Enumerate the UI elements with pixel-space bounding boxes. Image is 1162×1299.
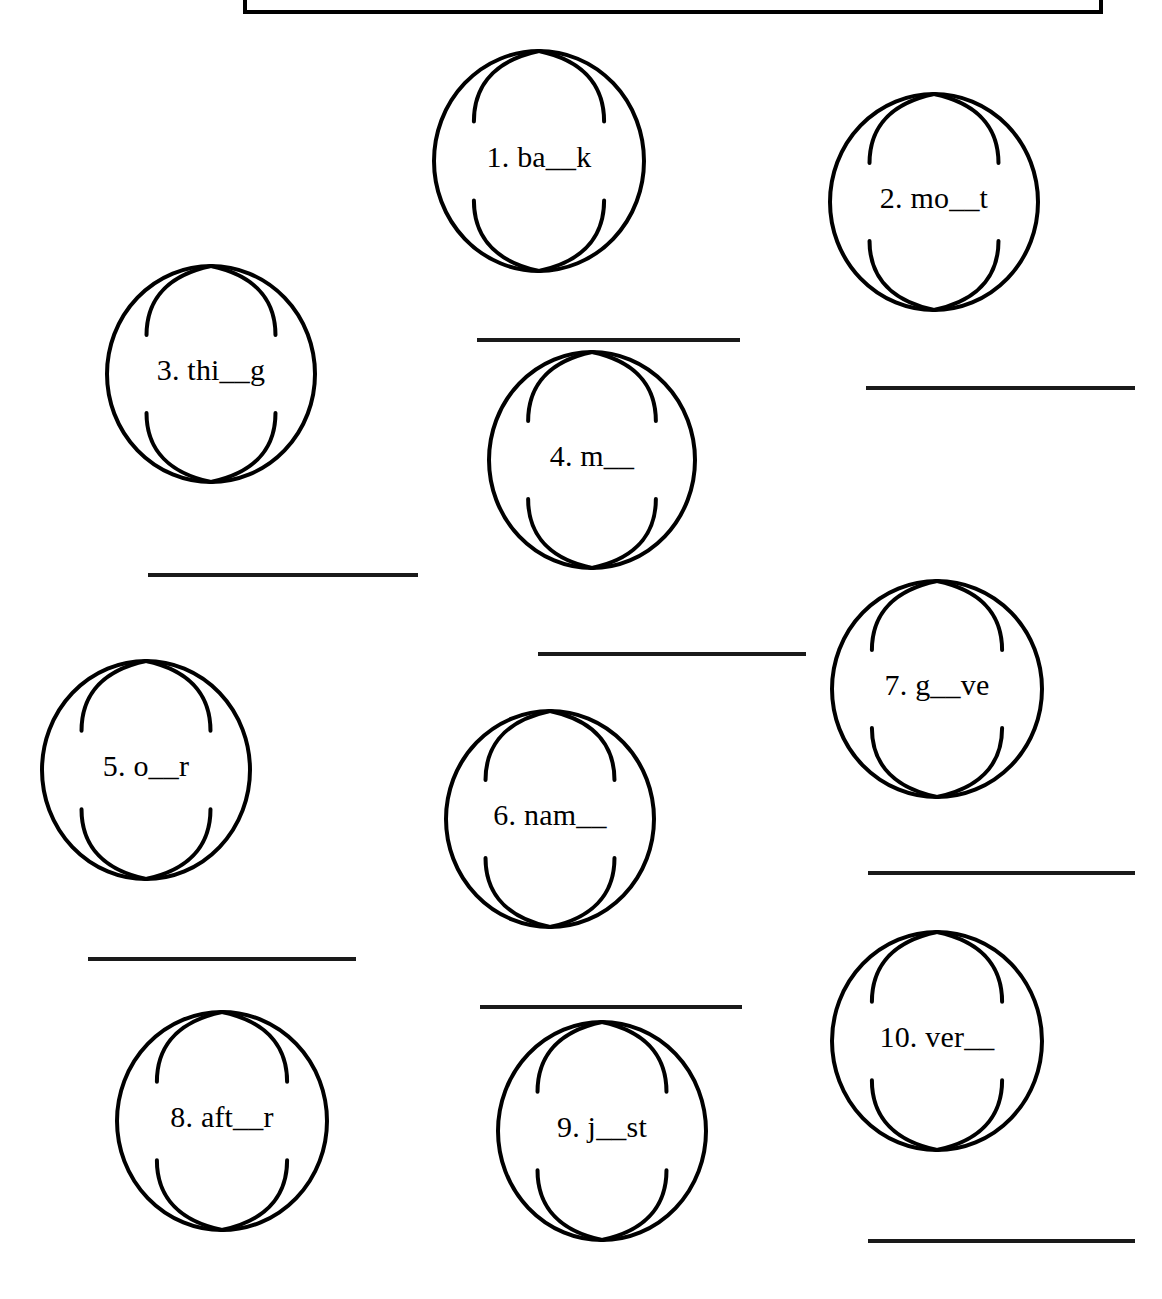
meridian-arc-bottom-left [474,201,539,271]
meridian-arc-top-left [147,266,211,335]
answer-line[interactable] [538,652,806,656]
worksheet-page: 1. ba__k2. mo__t3. thi__g4. m__5. o__r6.… [0,0,1162,1299]
meridian-arc-bottom-right [550,858,614,927]
meridian-arc-top-left [82,661,146,731]
meridian-arc-top-right [211,266,275,335]
meridian-arc-bottom-left [157,1160,222,1230]
globe-item: 7. g__ve [824,573,1050,805]
globe-item-label: 10. ver__ [824,1020,1050,1054]
meridian-arc-bottom-right [937,1080,1002,1150]
meridian-arc-bottom-right [211,413,275,482]
globe-item: 1. ba__k [426,43,652,279]
meridian-arc-bottom-right [539,201,604,271]
title-box [243,0,1103,14]
answer-line[interactable] [88,957,356,961]
answer-line[interactable] [477,338,740,342]
meridian-arc-bottom-left [872,1080,937,1150]
meridian-arc-bottom-right [592,499,656,568]
meridian-arc-top-right [937,932,1002,1002]
globe-item: 2. mo__t [822,86,1046,318]
answer-line[interactable] [480,1005,742,1009]
meridian-arc-top-right [146,661,210,731]
meridian-arc-top-right [550,711,614,780]
meridian-arc-bottom-right [937,728,1002,797]
globe-item-label: 9. j__st [490,1110,714,1144]
globe-item-label: 6. nam__ [438,798,662,832]
globe-item: 10. ver__ [824,924,1050,1158]
meridian-arc-top-left [157,1012,222,1082]
meridian-arc-top-right [937,581,1002,650]
meridian-arc-top-right [539,51,604,121]
meridian-arc-bottom-right [602,1170,666,1240]
globe-item-label: 1. ba__k [426,140,652,174]
meridian-arc-top-left [486,711,550,780]
globe-item-label: 4. m__ [481,439,703,473]
meridian-arc-top-left [528,352,592,421]
meridian-arc-top-right [934,94,998,163]
answer-line[interactable] [148,573,418,577]
meridian-arc-bottom-left [486,858,550,927]
answer-line[interactable] [868,1239,1135,1243]
meridian-arc-bottom-left [147,413,211,482]
globe-item: 8. aft__r [109,1004,335,1238]
globe-item-label: 3. thi__g [99,353,323,387]
meridian-arc-bottom-left [538,1170,602,1240]
meridian-arc-top-right [592,352,656,421]
answer-line[interactable] [868,871,1135,875]
meridian-arc-top-left [538,1022,602,1092]
meridian-arc-top-left [872,932,937,1002]
meridian-arc-bottom-right [222,1160,287,1230]
globe-item: 3. thi__g [99,258,323,490]
meridian-arc-bottom-left [82,809,146,879]
globe-item-label: 8. aft__r [109,1100,335,1134]
meridian-arc-bottom-right [146,809,210,879]
globe-item: 4. m__ [481,344,703,576]
meridian-arc-top-right [222,1012,287,1082]
meridian-arc-top-left [474,51,539,121]
globe-item-label: 5. o__r [34,749,258,783]
globe-item-label: 7. g__ve [824,668,1050,702]
meridian-arc-top-left [872,581,937,650]
answer-line[interactable] [866,386,1135,390]
meridian-arc-bottom-left [870,241,934,310]
meridian-arc-bottom-right [934,241,998,310]
meridian-arc-bottom-left [872,728,937,797]
meridian-arc-top-left [870,94,934,163]
globe-item: 9. j__st [490,1014,714,1248]
globe-item: 6. nam__ [438,703,662,935]
globe-item: 5. o__r [34,653,258,887]
meridian-arc-bottom-left [528,499,592,568]
globe-item-label: 2. mo__t [822,181,1046,215]
meridian-arc-top-right [602,1022,666,1092]
